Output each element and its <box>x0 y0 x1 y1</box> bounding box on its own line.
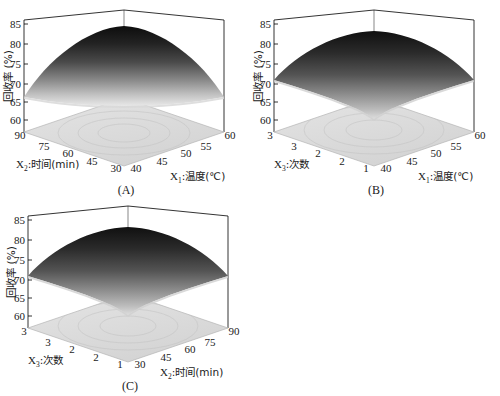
x-tick: 50 <box>431 147 443 159</box>
z-tick: 60 <box>260 114 272 126</box>
x-tick: 75 <box>205 336 217 348</box>
y-tick: 2 <box>315 147 321 159</box>
panel-c-right-axis-title: X2:时间(min) <box>160 366 223 381</box>
x-tick: 40 <box>131 162 143 174</box>
x-tick: 60 <box>185 343 197 355</box>
panel-b-left-axis-title: X3:次数 <box>274 158 310 173</box>
svg-text:X3:次数: X3:次数 <box>28 354 64 369</box>
y-tick: 2 <box>339 155 345 167</box>
z-tick: 60 <box>10 114 22 126</box>
svg-text:回收率 (%): 回收率 (%) <box>252 50 264 102</box>
y-tick: 3 <box>21 325 27 337</box>
panel-a-surface <box>24 26 224 108</box>
panel-c-left-axis-title: X3:次数 <box>28 354 64 369</box>
z-tick: 80 <box>260 38 272 50</box>
panel-a-left-axis-title: X2:时间(min) <box>16 158 79 173</box>
x-tick: 40 <box>381 162 393 174</box>
panel-c-plot: 85 80 75 70 65 60 回收率 (%) 3 3 2 2 1 30 4… <box>2 198 260 394</box>
panel-b-plot: 85 80 75 70 65 60 回收率 (%) 3 3 2 2 1 40 4… <box>252 2 500 198</box>
response-surface-figure: 85 80 75 70 65 60 回收率 (%) 90 75 60 45 30 <box>0 0 500 396</box>
x-tick: 30 <box>135 358 147 370</box>
y-tick: 3 <box>267 129 273 141</box>
panel-b-z-axis-title: 回收率 (%) <box>252 50 264 102</box>
x-tick: 45 <box>161 351 173 363</box>
y-tick: 2 <box>69 343 75 355</box>
panel-a: 85 80 75 70 65 60 回收率 (%) 90 75 60 45 30 <box>2 2 250 198</box>
z-tick: 85 <box>10 18 22 30</box>
z-tick: 85 <box>14 214 26 226</box>
y-tick: 3 <box>45 336 51 348</box>
y-tick: 1 <box>117 358 123 370</box>
z-tick: 80 <box>14 234 26 246</box>
z-tick: 60 <box>14 310 26 322</box>
z-tick: 80 <box>10 38 22 50</box>
x-tick: 45 <box>407 155 419 167</box>
panel-b-surface <box>274 31 474 121</box>
y-tick: 45 <box>87 155 99 167</box>
svg-text:X2:时间(min): X2:时间(min) <box>16 158 79 173</box>
y-tick: 90 <box>15 129 27 141</box>
svg-text:X1:温度(℃): X1:温度(℃) <box>170 170 225 185</box>
y-tick: 30 <box>111 162 123 174</box>
x-tick: 90 <box>229 325 241 337</box>
panel-c-surface <box>28 227 228 317</box>
y-tick: 2 <box>93 351 99 363</box>
panel-b: 85 80 75 70 65 60 回收率 (%) 3 3 2 2 1 40 4… <box>252 2 500 198</box>
svg-text:回收率 (%): 回收率 (%) <box>5 246 17 298</box>
panel-a-base-plane <box>24 98 224 166</box>
x-tick: 45 <box>157 155 169 167</box>
z-tick: 85 <box>260 18 272 30</box>
panel-a-plot: 85 80 75 70 65 60 回收率 (%) 90 75 60 45 30 <box>2 2 250 198</box>
x-tick: 55 <box>451 140 463 152</box>
y-tick: 3 <box>291 140 297 152</box>
x-tick: 60 <box>475 129 487 141</box>
panel-b-right-axis-title: X1:温度(℃) <box>418 170 473 185</box>
panel-a-z-axis-title: 回收率 (%) <box>2 50 14 102</box>
panel-a-label: (A) <box>118 183 135 197</box>
panel-c-z-axis-title: 回收率 (%) <box>5 246 17 298</box>
svg-text:X2:时间(min): X2:时间(min) <box>160 366 223 381</box>
panel-a-right-axis-title: X1:温度(℃) <box>170 170 225 185</box>
x-tick: 55 <box>201 140 213 152</box>
svg-text:X1:温度(℃): X1:温度(℃) <box>418 170 473 185</box>
panel-c: 85 80 75 70 65 60 回收率 (%) 3 3 2 2 1 30 4… <box>2 198 260 394</box>
svg-text:X3:次数: X3:次数 <box>274 158 310 173</box>
x-tick: 60 <box>225 129 237 141</box>
panel-b-label: (B) <box>368 183 384 197</box>
svg-text:回收率 (%): 回收率 (%) <box>2 50 14 102</box>
y-tick: 1 <box>363 162 369 174</box>
x-tick: 50 <box>181 147 193 159</box>
y-tick: 75 <box>39 140 51 152</box>
panel-c-label: (C) <box>122 379 138 393</box>
